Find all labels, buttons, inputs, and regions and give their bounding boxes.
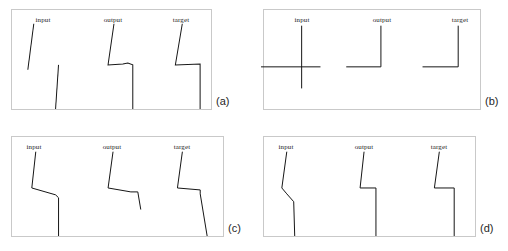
curve-input (282, 152, 295, 236)
panel-d: input output target (263, 136, 476, 237)
panel-b-label-output: output (373, 16, 392, 24)
panel-c-label-output: output (103, 143, 122, 151)
panel-caption-a: (a) (216, 95, 229, 107)
panel-c: input output target (11, 136, 224, 237)
panel-a-label-input: input (36, 16, 51, 24)
panel-a: input output target (11, 9, 212, 110)
panel-d-label-output: output (355, 143, 374, 151)
panel-b: input output target (263, 9, 481, 110)
panel-c-label-input: input (27, 143, 42, 151)
curve-target (175, 24, 200, 109)
curve-input (28, 24, 34, 70)
panel-a-label-output: output (104, 16, 123, 24)
panel-b-plot (264, 10, 480, 109)
curve-input (56, 65, 59, 109)
curve-output (360, 152, 376, 236)
panel-d-label-input: input (279, 143, 294, 151)
panel-caption-d: (d) (480, 222, 493, 234)
panel-b-curves (261, 26, 458, 89)
curve-target (423, 26, 459, 67)
panel-caption-c: (c) (228, 222, 241, 234)
panel-d-label-target: target (431, 143, 447, 151)
panel-a-label-target: target (173, 16, 189, 24)
panel-a-plot (12, 10, 211, 109)
curve-output (108, 24, 133, 109)
panel-d-plot (264, 137, 475, 236)
curve-target (177, 152, 207, 236)
curve-target (434, 152, 454, 236)
curve-input (32, 152, 59, 236)
curve-output (346, 26, 381, 67)
figure-panel-grid: input output target (a) input output tar… (0, 0, 508, 251)
panel-a-curves (28, 24, 200, 109)
panel-caption-b: (b) (485, 95, 498, 107)
panel-d-curves (282, 152, 454, 236)
panel-c-plot (12, 137, 223, 236)
curve-output (108, 152, 141, 210)
panel-b-label-target: target (452, 16, 468, 24)
panel-c-curves (32, 152, 207, 236)
panel-b-label-input: input (295, 16, 310, 24)
panel-c-label-target: target (174, 143, 190, 151)
